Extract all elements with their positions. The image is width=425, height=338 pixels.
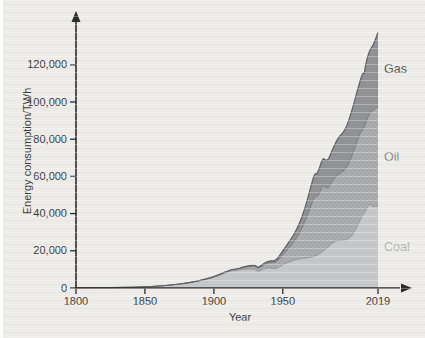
energy-consumption-figure: 020,00040,00060,00080,000100,000120,0001… <box>0 0 425 338</box>
stacked-area-chart <box>0 0 425 338</box>
series-label-gas: Gas <box>384 62 407 76</box>
x-axis-arrow <box>401 284 412 293</box>
y-axis-title: Energy consumption/TWh <box>21 88 33 215</box>
y-axis-arrow <box>72 11 81 22</box>
series-label-coal: Coal <box>384 240 410 254</box>
x-axis-title: Year <box>210 311 270 323</box>
series-label-oil: Oil <box>384 150 399 164</box>
